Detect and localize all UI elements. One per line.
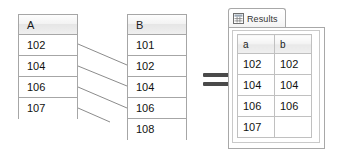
- table-b-row-2: 104: [128, 77, 186, 98]
- diagram-canvas: A 102 104 106 107 B 101 102 104 106 108: [0, 0, 337, 157]
- equals-bar-bottom: [203, 82, 229, 86]
- results-tabstrip: Results: [228, 8, 286, 28]
- connector-106: [78, 87, 127, 108]
- results-cell-a-1[interactable]: 104: [238, 75, 275, 96]
- connector-104: [78, 66, 127, 86]
- results-cell-a-2[interactable]: 106: [238, 96, 275, 117]
- table-b-row-3: 106: [128, 98, 186, 119]
- results-cell-b-1[interactable]: 104: [275, 75, 312, 96]
- tab-results[interactable]: Results: [228, 8, 286, 28]
- table-row[interactable]: 102 102: [238, 54, 312, 75]
- table-b-header: B: [128, 15, 186, 35]
- results-panel-body: a b 102 102 104 104: [228, 27, 325, 149]
- results-grid-frame: a b 102 102 104 104: [232, 30, 320, 143]
- results-col-b[interactable]: b: [275, 35, 312, 54]
- results-cell-b-3[interactable]: [275, 117, 312, 138]
- table-a-row-1: 104: [19, 56, 77, 77]
- table-row[interactable]: 104 104: [238, 75, 312, 96]
- table-b: B 101 102 104 106 108: [127, 14, 187, 140]
- table-b-row-1: 102: [128, 56, 186, 77]
- results-panel: Results a b 102 102: [228, 8, 326, 149]
- results-grid-header-row: a b: [238, 35, 312, 54]
- connector-102: [78, 44, 127, 65]
- table-row[interactable]: 106 106: [238, 96, 312, 117]
- table-b-row-4: 108: [128, 119, 186, 140]
- results-cell-b-0[interactable]: 102: [275, 54, 312, 75]
- equals-bar-top: [203, 73, 229, 77]
- equals-sign: [203, 73, 229, 86]
- table-row[interactable]: 107: [238, 117, 312, 138]
- results-col-a[interactable]: a: [238, 35, 275, 54]
- table-a-row-0: 102: [19, 35, 77, 56]
- grid-icon: [233, 13, 244, 24]
- table-a: A 102 104 106 107: [18, 14, 78, 119]
- table-a-header: A: [19, 15, 77, 35]
- connector-107-unmatched: [78, 108, 110, 122]
- results-grid: a b 102 102 104 104: [237, 34, 312, 138]
- table-a-row-2: 106: [19, 77, 77, 98]
- results-cell-a-3[interactable]: 107: [238, 117, 275, 138]
- results-cell-b-2[interactable]: 106: [275, 96, 312, 117]
- table-a-row-3: 107: [19, 98, 77, 119]
- results-cell-a-0[interactable]: 102: [238, 54, 275, 75]
- table-b-row-0: 101: [128, 35, 186, 56]
- tab-results-label: Results: [247, 14, 278, 24]
